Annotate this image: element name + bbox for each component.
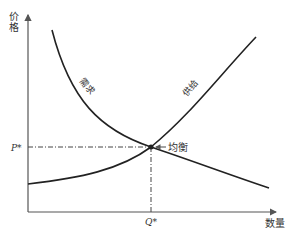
supply-demand-chart: 价 格 数量 均衡 P* Q* 需求 供给 [0, 0, 293, 241]
equilibrium-label: 均衡 [168, 142, 188, 153]
supply-curve [28, 37, 256, 184]
y-axis-label-bottom: 格 [9, 21, 19, 33]
p-star-label: P* [10, 143, 22, 153]
equilibrium-point [149, 145, 154, 150]
supply-label: 供给 [180, 77, 200, 98]
demand-label: 需求 [77, 75, 97, 96]
q-star-label: Q* [145, 217, 157, 227]
x-axis-label: 数量 [265, 217, 285, 229]
y-axis-label-top: 价 [9, 11, 19, 22]
demand-curve [52, 30, 269, 188]
